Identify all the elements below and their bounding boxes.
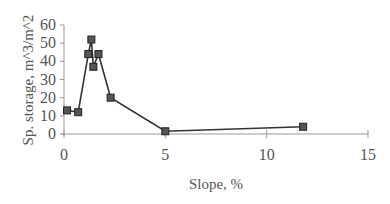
data-point-marker xyxy=(88,36,95,43)
data-point-marker xyxy=(300,123,307,130)
y-axis-label: Sp. storage, m^3/m^2 xyxy=(20,15,36,146)
data-point-marker xyxy=(90,63,97,70)
y-tick-label: 0 xyxy=(48,125,56,142)
data-point-marker xyxy=(95,51,102,58)
y-tick-label: 60 xyxy=(40,16,56,33)
y-tick-label: 50 xyxy=(40,34,56,51)
data-point-marker xyxy=(85,51,92,58)
y-tick-label: 20 xyxy=(40,89,56,106)
data-point-marker xyxy=(162,128,169,135)
data-point-marker xyxy=(64,107,71,114)
x-tick-label: 10 xyxy=(259,146,275,163)
y-tick-label: 30 xyxy=(40,71,56,88)
x-axis-label: Slope, % xyxy=(189,176,243,192)
x-tick-label: 5 xyxy=(161,146,169,163)
data-point-marker xyxy=(75,109,82,116)
data-point-marker xyxy=(107,94,114,101)
data-series xyxy=(64,36,307,135)
x-tick-label: 0 xyxy=(60,146,68,163)
y-tick-label: 10 xyxy=(40,107,56,124)
chart: 0102030405060051015 Slope, % Sp. storage… xyxy=(0,0,390,204)
x-tick-label: 15 xyxy=(360,146,376,163)
y-tick-label: 40 xyxy=(40,52,56,69)
series-line xyxy=(67,40,303,132)
